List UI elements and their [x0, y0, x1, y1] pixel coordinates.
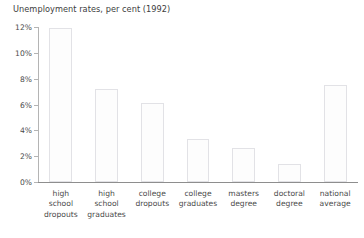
x-tick-label: collegedropouts — [129, 189, 175, 210]
x-tick-label: mastersdegree — [221, 189, 267, 210]
y-tick-mark — [34, 182, 38, 183]
x-tick-label-line: degree — [267, 199, 313, 209]
y-tick-label: 6% — [6, 100, 32, 109]
y-tick-label: 0% — [6, 178, 32, 187]
y-tick-label: 4% — [6, 126, 32, 135]
x-tick-label-line: dropouts — [129, 199, 175, 209]
bar[interactable] — [141, 103, 164, 182]
x-tick-label-line: masters — [221, 189, 267, 199]
x-tick-label-line: college — [175, 189, 221, 199]
x-tick-label-line: school — [84, 199, 130, 209]
y-tick-label: 2% — [6, 152, 32, 161]
bar[interactable] — [95, 89, 118, 182]
y-tick-label: 8% — [6, 74, 32, 83]
bar[interactable] — [278, 164, 301, 182]
bar[interactable] — [187, 139, 210, 182]
bar[interactable] — [232, 148, 255, 182]
chart-title: Unemployment rates, per cent (1992) — [13, 4, 170, 14]
x-tick-label-line: national — [312, 189, 358, 199]
x-tick-label-line: school — [38, 199, 84, 209]
y-tick-label: 12% — [6, 23, 32, 32]
x-tick-label-line: average — [312, 199, 358, 209]
x-axis-line — [38, 182, 358, 183]
x-tick-label-line: high — [38, 189, 84, 199]
bar[interactable] — [324, 85, 347, 182]
x-tick-label: nationalaverage — [312, 189, 358, 210]
x-tick-label-line: college — [129, 189, 175, 199]
x-tick-label-line: degree — [221, 199, 267, 209]
x-tick-label-line: graduates — [84, 210, 130, 220]
x-tick-label: collegegraduates — [175, 189, 221, 210]
x-tick-label: highschooldropouts — [38, 189, 84, 220]
y-tick-label: 10% — [6, 48, 32, 57]
x-tick-label-line: dropouts — [38, 210, 84, 220]
x-tick-label-line: graduates — [175, 199, 221, 209]
bar[interactable] — [49, 28, 72, 182]
bars-layer — [38, 27, 358, 182]
x-tick-label-line: high — [84, 189, 130, 199]
unemployment-bar-chart: Unemployment rates, per cent (1992) 0%2%… — [0, 0, 364, 238]
x-tick-label-line: doctoral — [267, 189, 313, 199]
x-tick-label: highschoolgraduates — [84, 189, 130, 220]
x-tick-label: doctoraldegree — [267, 189, 313, 210]
